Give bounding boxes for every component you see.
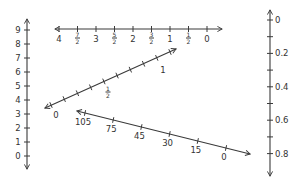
tick-label: 0 bbox=[221, 152, 226, 162]
tick-label-fraction: 52 bbox=[112, 31, 117, 46]
fraction-numerator: 7 bbox=[76, 31, 80, 38]
tick-mark bbox=[169, 131, 170, 137]
left-vertical-number-line: 0123456789 bbox=[15, 19, 30, 169]
fraction-numerator: 1 bbox=[187, 31, 191, 38]
tick-mark bbox=[113, 117, 114, 123]
tick-label: 7 bbox=[15, 53, 20, 63]
tick-label: 1 bbox=[15, 137, 20, 147]
tick-label: 30 bbox=[162, 138, 173, 148]
bottom-diagonal-number-line: 105754530150 bbox=[75, 110, 250, 162]
tick-mark bbox=[197, 138, 198, 144]
tick-label: 0 bbox=[204, 34, 209, 44]
tick-label: 3 bbox=[15, 109, 20, 119]
tick-label: 3 bbox=[93, 34, 98, 44]
tick-mark bbox=[84, 110, 85, 116]
right-vertical-number-line: 00.20.40.60.8 bbox=[267, 10, 289, 176]
fraction-denominator: 2 bbox=[76, 38, 80, 45]
tick-label: 0 bbox=[15, 151, 20, 161]
tick-label-fraction: 32 bbox=[149, 31, 154, 46]
tick-label: 4 bbox=[56, 34, 61, 44]
tick-label: 1 bbox=[160, 65, 165, 75]
tick-label-fraction: 12 bbox=[186, 31, 191, 46]
tick-mark bbox=[225, 145, 226, 151]
tick-label: 0.4 bbox=[275, 82, 289, 92]
tick-label: 4 bbox=[15, 95, 20, 105]
tick-label: 9 bbox=[15, 25, 20, 35]
tick-label-fraction: 72 bbox=[75, 31, 80, 46]
fraction-denominator: 2 bbox=[113, 38, 117, 45]
fraction-denominator: 2 bbox=[106, 92, 110, 99]
tick-label: 2 bbox=[130, 34, 135, 44]
fraction-numerator: 1 bbox=[106, 85, 110, 92]
tick-label: 6 bbox=[15, 67, 20, 77]
number-lines-diagram: 0123456789 4723522321120 0121 1057545301… bbox=[0, 0, 306, 189]
fraction-numerator: 5 bbox=[113, 31, 117, 38]
tick-label: 0 bbox=[53, 110, 58, 120]
tick-label: 2 bbox=[15, 123, 20, 133]
tick-mark bbox=[141, 124, 142, 130]
tick-label: 0.8 bbox=[275, 149, 289, 159]
tick-label: 15 bbox=[190, 145, 201, 155]
tick-label: 0 bbox=[275, 15, 280, 25]
tick-label: 45 bbox=[134, 131, 145, 141]
fraction-denominator: 2 bbox=[187, 38, 191, 45]
tick-label: 8 bbox=[15, 39, 20, 49]
fraction-denominator: 2 bbox=[150, 38, 154, 45]
tick-label: 5 bbox=[15, 81, 20, 91]
tick-label: 0.6 bbox=[275, 115, 289, 125]
tick-label: 1 bbox=[167, 34, 172, 44]
tick-label: 105 bbox=[75, 117, 91, 127]
top-horizontal-number-line: 4723522321120 bbox=[55, 26, 222, 45]
middle-diagonal-number-line: 0121 bbox=[45, 49, 176, 120]
fraction-numerator: 3 bbox=[150, 31, 154, 38]
tick-label-fraction: 12 bbox=[106, 85, 111, 100]
tick-label: 0.2 bbox=[275, 48, 289, 58]
tick-label: 75 bbox=[106, 124, 117, 134]
